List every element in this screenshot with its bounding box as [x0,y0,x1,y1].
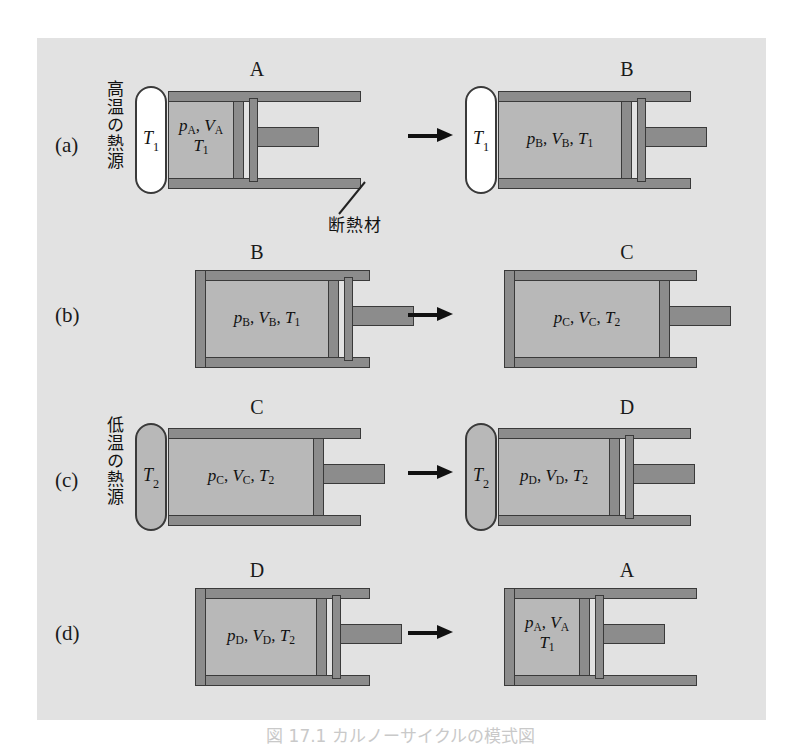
gas-state-text-d-right: pA, VA T1 [514,613,580,652]
cylinder-bottom-wall-c-left [168,515,361,526]
reservoir-temp-label: T2 [473,465,489,490]
arrow-head [437,465,453,479]
gas-state-text-d-left: pD, VD, T2 [205,626,317,646]
cold-reservoir-label-c: 低温の熱源 [105,416,123,531]
gas-state-text-a-left: pA, VA T1 [168,116,234,155]
process-arrow-c [408,465,456,480]
gas-line-1: pB, VB, T1 [234,308,301,327]
arrow-head [437,307,453,321]
piston-rod-c-left [323,464,385,484]
gas-line-1: pC, VC, T2 [554,308,621,327]
row-label-c: (c) [55,468,78,493]
piston-plate-d-right [579,598,590,676]
cylinder-bottom-wall-c-right [498,515,691,526]
state-label-c-left: C [167,396,347,419]
gas-line-2: T1 [539,633,554,652]
arrow-shaft [408,313,440,317]
reservoir-temp-label: T1 [473,128,489,153]
gas-line-1: pA, VA [179,116,223,135]
process-arrow-d [408,625,456,640]
process-arrow-b [408,307,456,322]
heat-reservoir-hot-a-right: T1 [465,86,497,194]
gas-state-text-b-left: pB, VB, T1 [205,308,329,328]
arrow-shaft [408,631,440,635]
cylinder-bottom-wall-b-right [504,357,697,368]
gas-line-1: pB, VB, T1 [527,129,594,148]
state-label-b-right: C [537,241,717,264]
reservoir-temp-label: T1 [143,128,159,153]
gas-line-2: T1 [193,136,208,155]
heat-reservoir-hot-a-left: T1 [135,86,167,194]
state-label-d-left: D [167,559,347,582]
heat-reservoir-cold-c-right: T2 [465,423,497,531]
gas-state-text-a-right: pB, VB, T1 [498,129,622,149]
piston-plate-d-left [316,598,327,676]
arrow-shaft [408,134,440,138]
piston-rod-b-right [669,306,731,326]
reservoir-temp-label: T2 [143,465,159,490]
arrow-head [437,128,453,142]
piston-plate-c-right [609,438,620,516]
gas-state-text-c-left: pC, VC, T2 [168,466,314,486]
arrow-shaft [408,471,440,475]
row-label-b: (b) [55,303,80,328]
gas-line-1: pD, VD, T2 [227,626,295,645]
insulation-label: 断熱材 [328,211,382,236]
piston-plate-a-right [621,101,632,179]
gas-line-1: pA, VA [525,613,569,632]
piston-rod-c-right [633,464,695,484]
gas-line-1: pD, VD, T2 [520,466,588,485]
state-label-d-right: A [537,559,717,582]
gas-state-text-b-right: pC, VC, T2 [514,308,660,328]
piston-rod-a-left [257,127,319,147]
state-label-a-right: B [537,58,717,81]
figure-caption-strip: 図 17.1 カルノーサイクルの模式図 [0,725,801,749]
piston-rod-d-right [603,624,665,644]
state-label-b-left: B [167,241,347,264]
piston-rod-a-right [645,127,707,147]
piston-rod-b-left [352,306,414,326]
gas-state-text-c-right: pD, VD, T2 [498,466,610,486]
cylinder-bottom-wall-a-right [498,178,691,189]
piston-plate-a-left [233,101,244,179]
arrow-head [437,625,453,639]
process-arrow-a [408,128,456,143]
row-label-d: (d) [55,621,80,646]
hot-reservoir-label-a: 高温の熱源 [105,80,123,195]
row-label-a: (a) [55,133,78,158]
figure-panel: (a) 高温の熱源 A T1 pA, VA T1 断熱材 [37,38,766,720]
gas-line-1: pC, VC, T2 [208,466,275,485]
piston-rod-d-left [340,624,402,644]
cylinder-bottom-wall-d-left [195,675,370,686]
state-label-c-right: D [537,396,717,419]
piston-plate-b-left [328,280,339,358]
state-label-a-left: A [167,58,347,81]
heat-reservoir-cold-c-left: T2 [135,423,167,531]
figure-caption: 図 17.1 カルノーサイクルの模式図 [0,725,801,747]
